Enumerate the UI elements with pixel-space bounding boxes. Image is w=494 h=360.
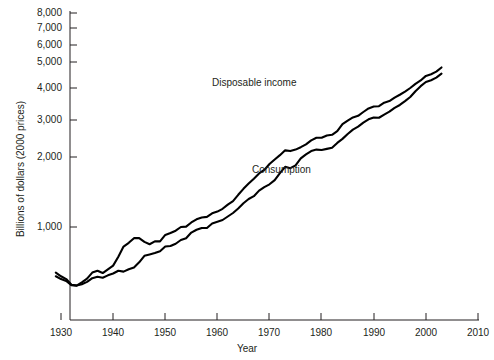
chart-plot-area [0, 0, 494, 360]
series-label-disposable-income: Disposable income [212, 78, 297, 88]
series-label-consumption: Consumption [252, 165, 311, 175]
y-axis-ticks [70, 13, 77, 227]
series-line-disposable-income [56, 67, 442, 285]
y-tick-label-6000: 6,000 [14, 40, 62, 50]
y-tick-label-8000: 8,000 [14, 8, 62, 18]
x-tick-label-1950: 1950 [154, 328, 176, 338]
series-line-consumption [56, 74, 442, 286]
x-tick-label-2010: 2010 [467, 328, 489, 338]
x-tick-label-1960: 1960 [206, 328, 228, 338]
x-tick-label-1940: 1940 [102, 328, 124, 338]
y-tick-label-7000: 7,000 [14, 23, 62, 33]
x-axis-ticks [61, 313, 478, 320]
x-tick-label-1930: 1930 [50, 328, 72, 338]
x-tick-label-1980: 1980 [310, 328, 332, 338]
x-tick-label-1970: 1970 [258, 328, 280, 338]
y-tick-label-5000: 5,000 [14, 57, 62, 67]
chart-figure: 8,000 7,000 6,000 5,000 4,000 3,000 2,00… [0, 0, 494, 360]
y-axis-title: Billions of dollars (2000 prices) [16, 69, 26, 269]
x-tick-label-2000: 2000 [415, 328, 437, 338]
x-axis-title: Year [0, 344, 494, 354]
x-tick-label-1990: 1990 [363, 328, 385, 338]
